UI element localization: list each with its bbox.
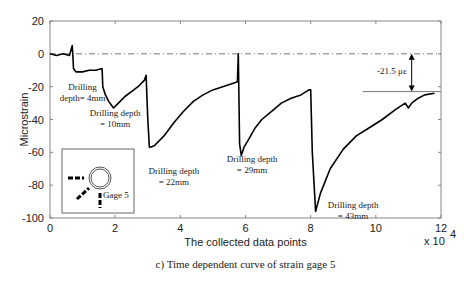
drilling-depth-label: depth= 4mm (60, 93, 106, 103)
arrow-up-icon (409, 54, 415, 60)
drilling-depth-label: = 43mm (338, 211, 368, 221)
x-multiplier-label: x 10 (424, 235, 445, 247)
y-tick-label: 0 (38, 48, 44, 60)
x-tick-label: 12 (435, 222, 447, 234)
inset-frame (62, 149, 134, 213)
x-tick-label: 8 (308, 222, 314, 234)
drilling-depth-label: = 29mm (237, 165, 267, 175)
arrow-down-icon (409, 86, 415, 92)
drilling-depth-label: Drilling depth (328, 200, 379, 210)
drilling-depth-label: Drilling (68, 82, 97, 92)
drilling-depth-label: = 10mm (100, 119, 130, 129)
figure-caption: c) Time dependent curve of strain gage 5 (156, 258, 336, 271)
x-tick-label: 4 (177, 222, 183, 234)
y-tick-label: -20 (28, 81, 44, 93)
y-tick-label: -100 (22, 212, 44, 224)
x-multiplier-exponent: 4 (450, 228, 456, 240)
y-axis-label: Microstrain (18, 93, 30, 147)
x-tick-label: 10 (370, 222, 382, 234)
chart-root: 024681012200-20-40-60-80-100 Drillingdep… (0, 0, 464, 281)
x-tick-label: 6 (242, 222, 248, 234)
gage-inset: Gage 5 (62, 149, 134, 213)
y-tick-label: -40 (28, 114, 44, 126)
drilling-depth-label: = 22mm (159, 177, 189, 187)
delta-label: -21.5 με (377, 66, 407, 76)
y-tick-label: 20 (32, 15, 44, 27)
y-tick-label: -80 (28, 179, 44, 191)
drilling-depth-label: Drilling depth (148, 166, 199, 176)
x-tick-label: 0 (47, 222, 53, 234)
x-axis-label: The collected data points (184, 236, 307, 248)
drilling-depth-label: Drilling depth (227, 154, 278, 164)
inset-label: Gage 5 (103, 190, 129, 200)
y-tick-label: -60 (28, 146, 44, 158)
drilling-depth-label: Drilling depth (90, 108, 141, 118)
x-tick-label: 2 (112, 222, 118, 234)
